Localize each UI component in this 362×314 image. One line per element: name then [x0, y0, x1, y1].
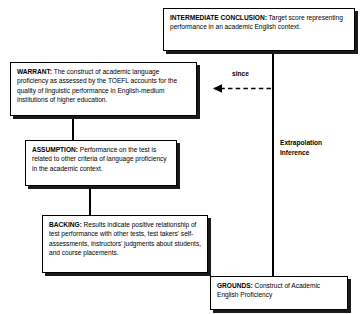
backing-lead: BACKING: — [49, 221, 82, 228]
since-dashed-arrow — [200, 84, 272, 93]
backing-box: BACKING: Results indicate positive relat… — [42, 215, 208, 273]
connector-conclusion-to-grounds — [272, 54, 274, 276]
connector-warrant-to-assumption — [72, 119, 74, 140]
grounds-lead: GROUNDS: — [217, 282, 253, 289]
connector-assumption-to-backing — [89, 189, 91, 215]
grounds-box: GROUNDS: Construct of Academic English P… — [210, 276, 348, 310]
warrant-box: WARRANT: The construct of academic langu… — [10, 62, 197, 116]
assumption-box: ASSUMPTION: Performance on the test is r… — [25, 140, 177, 186]
since-label: since — [232, 70, 249, 77]
intermediate-conclusion-box: INTERMEDIATE CONCLUSION: Target score re… — [163, 8, 355, 51]
assumption-lead: ASSUMPTION: — [32, 146, 78, 153]
argument-diagram: since Extrapolation Inference INTERMEDIA… — [0, 0, 362, 314]
intermediate-conclusion-lead: INTERMEDIATE CONCLUSION: — [170, 14, 267, 21]
warrant-lead: WARRANT: — [17, 68, 52, 75]
extrapolation-inference-label: Extrapolation Inference — [280, 138, 342, 157]
